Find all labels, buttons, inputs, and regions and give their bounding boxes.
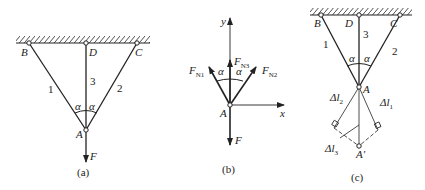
label-alpha-right: α bbox=[364, 52, 370, 64]
label-bar-1: 1 bbox=[48, 83, 54, 95]
label-b: B bbox=[314, 17, 321, 29]
label-bar-2: 2 bbox=[392, 45, 398, 57]
label-alpha-right: α bbox=[89, 100, 95, 112]
label-bar-2: 2 bbox=[117, 82, 123, 94]
label-a-prime: A′ bbox=[355, 148, 366, 160]
delta-l3-leader bbox=[340, 125, 359, 138]
pin-b bbox=[27, 41, 31, 45]
label-bar-3: 3 bbox=[363, 28, 369, 40]
figure-a: B D C 1 3 2 α α A F (a) bbox=[16, 36, 150, 179]
label-c: C bbox=[135, 46, 143, 58]
label-c: C bbox=[390, 17, 398, 29]
label-a: A bbox=[362, 83, 370, 95]
caption-b: (b) bbox=[222, 163, 235, 176]
perpendicular-right bbox=[359, 130, 378, 146]
pin-c bbox=[398, 13, 402, 17]
label-a: A bbox=[75, 128, 83, 140]
label-y: y bbox=[220, 15, 226, 27]
perpendicular-left bbox=[334, 128, 359, 146]
bar-1 bbox=[29, 43, 86, 130]
label-alpha-left: α bbox=[218, 65, 224, 77]
label-delta-l3: Δl3 bbox=[324, 142, 339, 157]
ground-hatch bbox=[16, 36, 150, 43]
label-fn1: FN1 bbox=[188, 64, 205, 79]
pin-d bbox=[357, 13, 361, 17]
label-b: B bbox=[21, 46, 28, 58]
figure-c: B D C 1 3 2 α α A Δl2 Δl1 Δl3 A′ (c) bbox=[310, 8, 412, 184]
label-alpha-left: α bbox=[75, 100, 81, 112]
node-a bbox=[228, 103, 232, 107]
caption-c: (c) bbox=[351, 171, 364, 184]
label-alpha-left: α bbox=[349, 52, 355, 64]
figure-b: y x FN3 FN1 FN2 α α A F (b) bbox=[188, 15, 285, 176]
pin-a bbox=[357, 85, 361, 89]
label-a: A bbox=[219, 107, 227, 119]
pin-a bbox=[84, 128, 88, 132]
label-alpha-right: α bbox=[236, 65, 242, 77]
label-bar-3: 3 bbox=[90, 75, 96, 87]
label-d: D bbox=[344, 17, 353, 29]
label-d: D bbox=[88, 46, 97, 58]
truss-diagram: B D C 1 3 2 α α A F (a) y x FN3 FN1 FN2 … bbox=[0, 0, 425, 190]
label-force: F bbox=[234, 134, 242, 146]
label-x: x bbox=[279, 107, 285, 119]
right-angle-mark-right bbox=[374, 122, 381, 129]
label-delta-l1: Δl1 bbox=[379, 96, 394, 111]
label-bar-1: 1 bbox=[323, 38, 329, 50]
force-n2-arrow bbox=[230, 67, 256, 105]
caption-a: (a) bbox=[77, 166, 90, 179]
bar-1 bbox=[321, 15, 359, 87]
pin-d bbox=[84, 41, 88, 45]
label-fn2: FN2 bbox=[261, 64, 278, 79]
label-force: F bbox=[89, 150, 97, 162]
label-delta-l2: Δl2 bbox=[329, 91, 344, 106]
pin-c bbox=[135, 41, 139, 45]
